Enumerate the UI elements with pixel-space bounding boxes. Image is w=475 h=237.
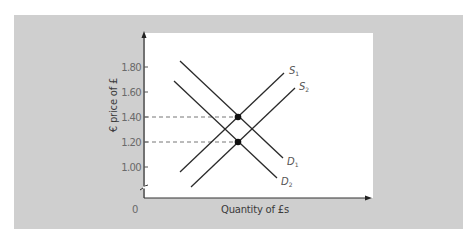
y-tick-label: 1.60: [121, 87, 141, 98]
y-tick-label: 1.20: [121, 137, 141, 148]
axis-break-gap: [143, 187, 146, 189]
equilibrium-point-1-20: [235, 139, 242, 146]
y-tick-label: 1.80: [121, 62, 141, 73]
y-axis-title: € price of £: [108, 78, 119, 132]
exchange-rate-chart: 1.80 1.60 1.40 1.20 1.00 0 Quantity of £…: [0, 0, 475, 237]
plot-area: [145, 33, 373, 198]
y-tick-label: 1.00: [121, 162, 141, 173]
y-tick-label: 1.40: [121, 112, 141, 123]
x-origin-label: 0: [132, 204, 138, 215]
equilibrium-point-1-40: [235, 114, 242, 121]
x-axis-title: Quantity of £s: [221, 204, 289, 215]
